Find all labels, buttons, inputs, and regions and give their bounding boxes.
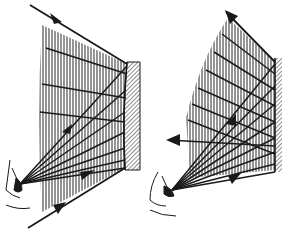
right-eye (150, 172, 176, 216)
mirror-reflection-diagram (0, 0, 289, 232)
diagram-canvas (0, 0, 289, 232)
left-light-region (39, 25, 127, 212)
arrow-icon (166, 134, 180, 146)
left-eye (6, 160, 30, 209)
right-mirror (275, 58, 282, 172)
left-panel (6, 5, 140, 228)
right-light-region (186, 18, 275, 178)
right-panel (150, 10, 282, 216)
